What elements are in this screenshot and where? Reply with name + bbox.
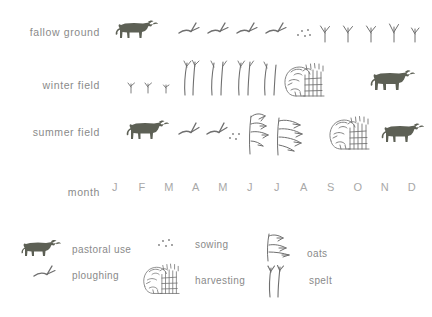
spelt-plant-icon: [341, 21, 357, 43]
month-label-feb: F: [135, 181, 149, 193]
legend-label-harvesting: harvesting: [195, 275, 245, 286]
cow-icon: [112, 14, 160, 44]
month-label-jun: J: [243, 181, 257, 193]
legend-item-spelt: spelt: [265, 264, 375, 300]
month-axis: J F M A M J J A S O N D: [108, 181, 426, 197]
spelt-plant-icon: [207, 58, 229, 96]
cow-icon: [378, 117, 426, 148]
legend-item-harvesting: harvesting: [140, 260, 270, 300]
spelt-plant-icon: [260, 60, 280, 96]
sowing-dots-icon: [157, 238, 179, 256]
legend-item-sowing: sowing: [157, 238, 267, 260]
spelt-seedling-icon: [161, 77, 173, 94]
sowing-dots-icon: [296, 27, 316, 41]
legend-label-ploughing: ploughing: [72, 270, 119, 281]
legend-item-pastoral-use: pastoral use: [18, 235, 148, 261]
legend-label-oats: oats: [307, 248, 328, 259]
spelt-plant-icon: [265, 264, 287, 302]
spelt-seedling-icon: [143, 76, 155, 94]
spelt-seedling-icon: [126, 76, 138, 94]
harvesting-scene-icon: [140, 260, 182, 302]
month-label-jan: J: [108, 181, 122, 193]
month-label-nov: N: [378, 181, 392, 193]
row-label-summer-field: summer field: [4, 126, 100, 138]
month-label-aug: A: [297, 181, 311, 193]
spelt-plant-icon: [180, 58, 202, 96]
oats-plant-icon: [272, 112, 312, 156]
sowing-dots-icon: [228, 131, 242, 143]
cow-icon: [18, 235, 62, 265]
row-label-winter-field: winter field: [4, 79, 100, 91]
legend-label-pastoral-use: pastoral use: [72, 244, 131, 255]
legend: pastoral use ploughing: [0, 232, 432, 317]
month-label-sep: S: [324, 181, 338, 193]
plough-mark-icon: [178, 19, 204, 41]
spelt-plant-icon: [364, 21, 380, 43]
month-label-dec: D: [405, 181, 419, 193]
spelt-plant-icon: [234, 58, 256, 96]
month-label-may: M: [216, 181, 230, 193]
row-label-fallow-ground: fallow ground: [4, 26, 100, 38]
month-label-oct: O: [351, 181, 365, 193]
agricultural-calendar-figure: fallow ground winter field summer field …: [0, 0, 432, 317]
cow-icon: [367, 64, 417, 96]
legend-label-sowing: sowing: [195, 239, 229, 250]
legend-label-spelt: spelt: [309, 275, 332, 286]
plough-mark-icon: [207, 19, 233, 41]
cow-icon: [123, 114, 171, 145]
plough-mark-icon: [236, 19, 262, 41]
legend-item-oats: oats: [263, 232, 373, 262]
plough-mark-icon: [178, 119, 204, 141]
spelt-plant-icon: [387, 20, 403, 43]
plough-mark-icon: [32, 264, 62, 290]
oats-plant-icon: [263, 232, 299, 266]
harvesting-scene-icon: [326, 112, 372, 154]
month-label-mar: M: [162, 181, 176, 193]
harvesting-scene-icon: [281, 59, 327, 101]
month-label-jul: J: [270, 181, 284, 193]
spelt-plant-icon: [409, 22, 423, 43]
row-label-month: month: [4, 186, 100, 198]
spelt-plant-icon: [318, 21, 334, 43]
plough-mark-icon: [265, 19, 291, 41]
month-label-apr: A: [189, 181, 203, 193]
